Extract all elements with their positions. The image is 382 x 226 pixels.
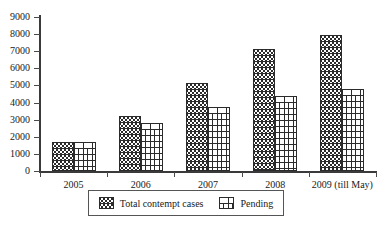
bar-2005-series-1 bbox=[52, 142, 74, 171]
bar-chart: 0100020003000400050006000700080009000 20… bbox=[0, 0, 382, 226]
legend-label-pending: Pending bbox=[240, 197, 273, 210]
x-axis-tick bbox=[107, 172, 108, 177]
bar-2009-till-may--series-2 bbox=[342, 89, 364, 171]
bar-2009-till-may--series-1 bbox=[320, 35, 342, 171]
x-axis-line bbox=[39, 171, 377, 173]
y-axis-tick-label: 3000 bbox=[10, 113, 30, 126]
x-axis-label: 2009 (till May) bbox=[312, 178, 373, 191]
legend-label-total-contempt-cases: Total contempt cases bbox=[120, 197, 204, 210]
y-axis-tick-label: 5000 bbox=[10, 78, 30, 91]
y-axis-tick-label: 2000 bbox=[10, 130, 30, 143]
x-axis-tick bbox=[376, 172, 377, 177]
x-axis-label: 2005 bbox=[64, 178, 84, 191]
y-axis-tick-label: 7000 bbox=[10, 44, 30, 57]
legend-item-pending: Pending bbox=[219, 197, 273, 210]
bar-2008-series-2 bbox=[275, 96, 297, 171]
plot-area bbox=[40, 17, 376, 171]
x-axis-tick bbox=[174, 172, 175, 177]
bar-2005-series-2 bbox=[74, 142, 96, 171]
x-axis-tick bbox=[309, 172, 310, 177]
x-axis-tick bbox=[40, 172, 41, 177]
legend-item-total-contempt-cases: Total contempt cases bbox=[99, 197, 204, 210]
bar-2006-series-2 bbox=[141, 123, 163, 171]
legend-swatch-wavy-hatch-icon bbox=[99, 197, 114, 209]
y-axis-tick-label: 9000 bbox=[10, 10, 30, 23]
bar-2008-series-1 bbox=[253, 49, 275, 171]
y-axis-tick-label: 4000 bbox=[10, 96, 30, 109]
y-axis-tick-label: 0 bbox=[25, 164, 30, 177]
y-axis-tick-label: 1000 bbox=[10, 147, 30, 160]
x-axis-tick bbox=[242, 172, 243, 177]
y-axis-tick-label: 6000 bbox=[10, 61, 30, 74]
bar-2006-series-1 bbox=[119, 116, 141, 171]
legend-swatch-brick-hatch-icon bbox=[219, 197, 234, 209]
y-axis-tick-label: 8000 bbox=[10, 27, 30, 40]
chart-legend: Total contempt cases Pending bbox=[88, 190, 284, 216]
bar-2007-series-2 bbox=[208, 107, 230, 171]
bar-2007-series-1 bbox=[186, 83, 208, 171]
